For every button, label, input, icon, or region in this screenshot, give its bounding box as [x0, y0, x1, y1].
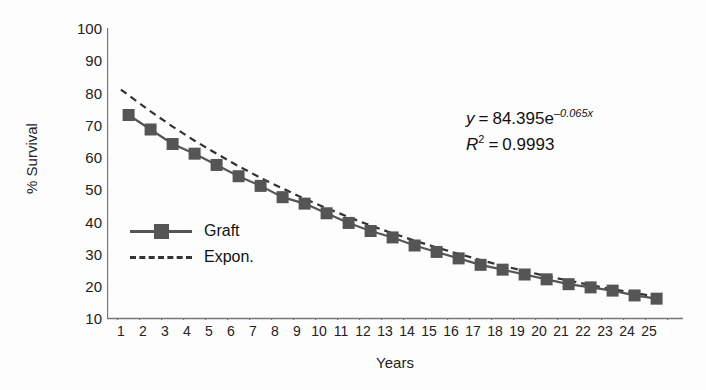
y-axis-title: % Survival: [23, 104, 40, 214]
data-point-marker: [123, 109, 135, 121]
chart-page: 100 90 80 70 60 50 40 30 20 10 % Surviva…: [0, 0, 706, 390]
data-point-marker: [607, 285, 619, 297]
data-point-marker: [145, 124, 157, 136]
chart-svg: [107, 28, 683, 320]
data-point-marker: [365, 225, 377, 237]
plot-area: [107, 28, 683, 318]
x-tick-label: 25: [634, 324, 664, 338]
data-point-marker: [431, 246, 443, 258]
y-tick-label: 50: [66, 182, 102, 197]
y-tick-label: 40: [66, 215, 102, 230]
legend-key-solid-square-icon: [130, 221, 192, 241]
data-point-marker: [233, 170, 245, 182]
equation-equals: =: [479, 109, 489, 128]
legend-item-graft: Graft: [130, 218, 254, 244]
data-point-marker: [255, 180, 267, 192]
y-axis-tick-labels: 100 90 80 70 60 50 40 30 20 10: [58, 0, 102, 390]
y-tick-label: 10: [66, 311, 102, 326]
legend-label: Graft: [204, 223, 240, 239]
data-point-marker: [343, 217, 355, 229]
equation-r2-value: 0.9993: [502, 135, 554, 154]
x-axis-title: Years: [345, 354, 445, 371]
data-point-marker: [453, 252, 465, 264]
data-point-marker: [299, 198, 311, 210]
equation-equals-2: =: [488, 135, 498, 154]
data-point-marker: [475, 259, 487, 271]
equation-r-symbol: R: [466, 135, 478, 154]
y-tick-label: 90: [66, 53, 102, 68]
data-point-marker: [585, 281, 597, 293]
data-point-marker: [321, 207, 333, 219]
equation-coefficient: 84.395e: [492, 109, 553, 128]
data-point-marker: [167, 138, 179, 150]
equation-exponent: –0.065x: [554, 107, 593, 119]
chart-legend: Graft Expon.: [130, 218, 254, 270]
legend-label: Expon.: [204, 249, 254, 265]
data-point-marker: [387, 231, 399, 243]
data-point-marker: [277, 191, 289, 203]
data-point-marker: [211, 159, 223, 171]
data-point-marker: [189, 148, 201, 160]
data-point-marker: [629, 289, 641, 301]
y-tick-label: 20: [66, 279, 102, 294]
equation-line-1: y=84.395e–0.065x: [466, 106, 593, 132]
data-point-marker: [497, 264, 509, 276]
equation-r-superscript: 2: [478, 134, 484, 146]
y-tick-label: 100: [66, 21, 102, 36]
equation-y-symbol: y: [466, 109, 475, 128]
y-tick-label: 80: [66, 86, 102, 101]
y-tick-label: 60: [66, 150, 102, 165]
data-point-marker: [519, 269, 531, 281]
data-point-marker: [409, 240, 421, 252]
regression-equation-annotation: y=84.395e–0.065x R2=0.9993: [466, 106, 593, 159]
legend-item-expon: Expon.: [130, 244, 254, 270]
y-tick-label: 30: [66, 247, 102, 262]
data-point-marker: [563, 278, 575, 290]
equation-line-2: R2=0.9993: [466, 132, 593, 158]
legend-key-dashed-line-icon: [130, 247, 192, 267]
y-tick-label: 70: [66, 118, 102, 133]
data-point-marker: [651, 293, 663, 305]
data-point-marker: [541, 273, 553, 285]
